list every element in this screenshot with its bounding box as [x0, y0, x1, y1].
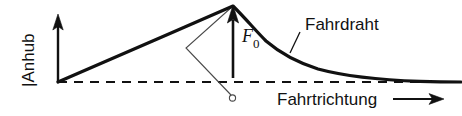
circle-icon: [229, 95, 235, 101]
x-axis-label: Fahrtrichtung: [277, 90, 377, 109]
y-axis-label: |Anhub: [19, 33, 38, 87]
contact-wire-curve: [58, 6, 461, 82]
force-subscript: 0: [253, 36, 260, 51]
curve-label: Fahrdraht: [305, 15, 379, 34]
contact-wire-uplift-diagram: |Anhub Fahrtrichtung Fahrdraht F0: [0, 0, 462, 116]
curve-label-leader-line: [290, 32, 300, 53]
diagram-canvas: |Anhub Fahrtrichtung Fahrdraht F0: [0, 0, 462, 116]
